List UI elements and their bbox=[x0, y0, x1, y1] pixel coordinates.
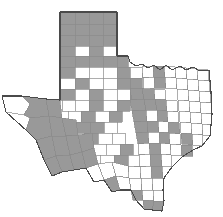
county[interactable] bbox=[132, 110, 147, 122]
county[interactable] bbox=[130, 88, 144, 100]
county[interactable] bbox=[103, 89, 117, 100]
county[interactable] bbox=[89, 100, 103, 111]
county[interactable] bbox=[153, 190, 164, 201]
county[interactable] bbox=[26, 116, 52, 140]
county[interactable] bbox=[103, 67, 117, 78]
county[interactable] bbox=[60, 24, 75, 35]
county[interactable] bbox=[60, 35, 75, 46]
county[interactable] bbox=[165, 77, 177, 89]
county[interactable] bbox=[103, 78, 117, 89]
county[interactable] bbox=[120, 144, 133, 155]
county[interactable] bbox=[89, 67, 103, 78]
county[interactable] bbox=[201, 113, 211, 125]
county[interactable] bbox=[199, 91, 211, 103]
county[interactable] bbox=[141, 178, 153, 190]
county[interactable] bbox=[167, 111, 179, 123]
county[interactable] bbox=[95, 111, 109, 122]
texas-county-map[interactable] bbox=[0, 0, 223, 217]
county[interactable] bbox=[170, 144, 182, 156]
county[interactable] bbox=[75, 100, 89, 111]
county[interactable] bbox=[130, 67, 142, 78]
county[interactable] bbox=[161, 154, 172, 167]
county[interactable] bbox=[149, 143, 161, 154]
county[interactable] bbox=[157, 110, 168, 122]
county[interactable] bbox=[143, 77, 155, 89]
county[interactable] bbox=[106, 144, 120, 155]
county[interactable] bbox=[128, 166, 141, 178]
county[interactable] bbox=[152, 178, 163, 190]
county[interactable] bbox=[142, 190, 154, 201]
county[interactable] bbox=[103, 46, 117, 56]
county[interactable] bbox=[89, 46, 103, 56]
county[interactable] bbox=[60, 46, 75, 56]
county[interactable] bbox=[109, 111, 122, 122]
county[interactable] bbox=[89, 78, 103, 89]
county[interactable] bbox=[90, 122, 104, 133]
county[interactable] bbox=[139, 154, 151, 167]
county[interactable] bbox=[89, 56, 103, 67]
county[interactable] bbox=[158, 121, 169, 133]
county[interactable] bbox=[146, 110, 158, 121]
county[interactable] bbox=[89, 35, 103, 46]
county[interactable] bbox=[166, 100, 178, 112]
county[interactable] bbox=[103, 35, 117, 46]
county[interactable] bbox=[131, 190, 143, 200]
county[interactable] bbox=[138, 143, 150, 155]
county[interactable] bbox=[188, 90, 200, 102]
county[interactable] bbox=[160, 143, 171, 155]
county[interactable] bbox=[103, 100, 117, 111]
county[interactable] bbox=[142, 88, 155, 99]
county[interactable] bbox=[130, 99, 146, 111]
county[interactable] bbox=[103, 12, 117, 24]
county[interactable] bbox=[154, 89, 166, 100]
county[interactable] bbox=[75, 35, 89, 46]
county[interactable] bbox=[180, 122, 192, 134]
county[interactable] bbox=[151, 166, 163, 178]
county[interactable] bbox=[60, 12, 75, 24]
county[interactable] bbox=[148, 132, 160, 143]
county[interactable] bbox=[89, 24, 103, 35]
county[interactable] bbox=[104, 122, 117, 133]
county[interactable] bbox=[112, 133, 125, 144]
county[interactable] bbox=[168, 122, 180, 134]
county[interactable] bbox=[117, 56, 128, 67]
county[interactable] bbox=[75, 56, 89, 67]
county[interactable] bbox=[60, 67, 75, 78]
county[interactable] bbox=[76, 122, 90, 133]
county[interactable] bbox=[103, 24, 117, 35]
county[interactable] bbox=[179, 111, 191, 123]
county[interactable] bbox=[75, 67, 89, 78]
county[interactable] bbox=[177, 89, 189, 101]
county[interactable] bbox=[136, 132, 149, 144]
county[interactable] bbox=[103, 56, 117, 67]
county[interactable] bbox=[176, 78, 188, 90]
county[interactable] bbox=[155, 99, 167, 111]
county[interactable] bbox=[187, 79, 199, 91]
county[interactable] bbox=[75, 46, 89, 56]
county[interactable] bbox=[189, 101, 201, 113]
county[interactable] bbox=[190, 112, 202, 124]
county[interactable] bbox=[159, 132, 170, 144]
county[interactable] bbox=[75, 12, 89, 24]
county[interactable] bbox=[117, 89, 130, 100]
county[interactable] bbox=[60, 78, 75, 89]
county[interactable] bbox=[198, 80, 210, 92]
county[interactable] bbox=[134, 121, 148, 133]
county[interactable] bbox=[60, 89, 75, 100]
county[interactable] bbox=[75, 89, 89, 100]
county[interactable] bbox=[175, 67, 187, 79]
county[interactable] bbox=[130, 78, 142, 89]
county[interactable] bbox=[117, 78, 130, 89]
county[interactable] bbox=[117, 67, 130, 78]
county[interactable] bbox=[98, 133, 112, 144]
county[interactable] bbox=[117, 100, 130, 111]
county[interactable] bbox=[147, 121, 159, 132]
county[interactable] bbox=[181, 133, 193, 145]
county[interactable] bbox=[140, 166, 152, 178]
county[interactable] bbox=[81, 111, 95, 122]
county[interactable] bbox=[178, 100, 190, 112]
county[interactable] bbox=[150, 154, 162, 166]
county[interactable] bbox=[75, 24, 89, 35]
county[interactable] bbox=[154, 77, 166, 88]
county[interactable] bbox=[191, 123, 203, 135]
